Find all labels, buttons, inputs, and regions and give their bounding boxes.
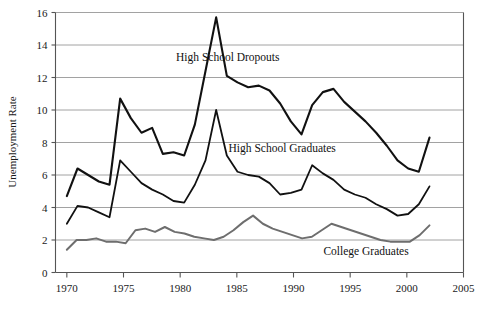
x-tick-label-1975: 1975: [113, 282, 136, 294]
series-label-high-school-dropouts: High School Dropouts: [176, 51, 280, 64]
y-tick-label-8: 8: [42, 137, 48, 149]
x-tick-label-1995: 1995: [339, 282, 362, 294]
y-tick-label-14: 14: [37, 39, 49, 51]
y-tick-label-4: 4: [42, 202, 48, 214]
x-tick-label-2000: 2000: [396, 282, 419, 294]
unemployment-rate-line-chart: 0246810121416 19701975198019851990199520…: [0, 0, 497, 312]
x-tick-label-1980: 1980: [169, 282, 192, 294]
x-tick-label-1970: 1970: [56, 282, 79, 294]
y-tick-label-10: 10: [37, 104, 49, 116]
y-tick-label-0: 0: [42, 267, 48, 279]
y-tick-label-12: 12: [37, 72, 48, 84]
x-tick-label-2005: 2005: [453, 282, 476, 294]
y-tick-label-16: 16: [37, 7, 49, 19]
y-axis-title: Unemployment Rate: [6, 96, 18, 187]
series-label-high-school-graduates: High School Graduates: [229, 142, 337, 155]
series-label-college-graduates: College Graduates: [323, 245, 409, 258]
y-tick-label-6: 6: [42, 169, 48, 181]
chart-canvas: 0246810121416 19701975198019851990199520…: [0, 0, 497, 312]
chart-background: [0, 0, 497, 312]
x-tick-label-1985: 1985: [226, 282, 249, 294]
y-tick-label-2: 2: [42, 234, 48, 246]
x-tick-label-1990: 1990: [283, 282, 306, 294]
